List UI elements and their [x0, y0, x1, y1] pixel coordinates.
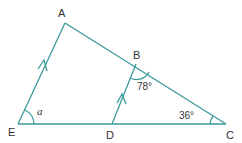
angle-C-value: 36° [179, 110, 194, 121]
parallel-arrow-AE [38, 60, 47, 71]
geometry-diagram: A B C D E 78° 36° a [0, 0, 242, 143]
segment-BD [112, 64, 136, 124]
angle-arc-E [25, 110, 34, 124]
angle-B-value: 78° [137, 81, 152, 92]
segment-AC [65, 23, 226, 124]
triangle-figure: A B C D E 78° 36° a [0, 0, 242, 143]
label-D: D [106, 129, 114, 141]
angle-arc-C [210, 116, 213, 124]
label-B: B [133, 49, 140, 61]
angle-E-label: a [37, 105, 43, 117]
label-A: A [58, 7, 66, 19]
label-C: C [226, 129, 234, 141]
label-E: E [8, 126, 15, 138]
